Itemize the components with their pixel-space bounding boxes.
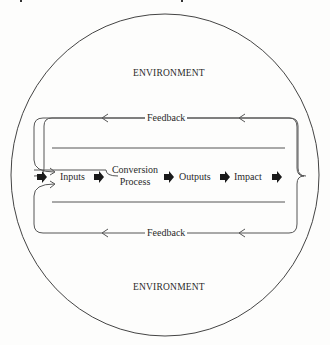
feedback-path-top [34, 118, 304, 176]
node-inputs: Inputs [60, 171, 85, 183]
block-arrow-right-icon [220, 171, 230, 183]
node-conversion-line2: Process [108, 176, 162, 188]
cropped-caption-fragment [20, 0, 183, 2]
feedback-label-bottom: Feedback [145, 228, 187, 238]
environment-label-bottom: ENVIRONMENT [133, 283, 205, 293]
block-arrow-right-icon [94, 171, 104, 183]
block-arrow-right-icon [37, 171, 47, 183]
block-arrow-right-icon [164, 171, 174, 183]
feedback-path-bottom [34, 176, 304, 233]
feedback-loop-top [34, 118, 306, 176]
feedback-label-top: Feedback [145, 113, 187, 123]
diagram-canvas [0, 0, 330, 345]
block-arrow-right-icon [272, 171, 282, 183]
node-conversion-process: Conversion Process [108, 164, 162, 188]
node-impact: Impact [234, 171, 262, 183]
environment-label-top: ENVIRONMENT [133, 69, 205, 79]
node-conversion-line1: Conversion [108, 164, 162, 176]
node-outputs: Outputs [179, 171, 211, 183]
